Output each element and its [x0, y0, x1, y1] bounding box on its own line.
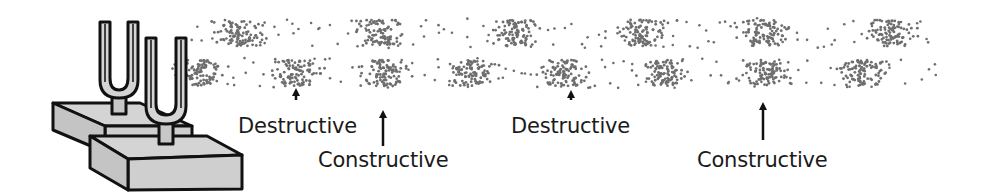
compression-cluster: [866, 19, 920, 48]
arrow-destructive-2: [567, 90, 575, 100]
base-block-front-front: [128, 155, 242, 190]
compression-cluster: [210, 19, 267, 48]
compression-cluster: [358, 59, 414, 88]
compression-cluster: [616, 19, 669, 48]
label-constructive-1: Constructive: [318, 148, 449, 172]
label-destructive-1: Destructive: [238, 114, 357, 138]
compression-cluster: [492, 19, 541, 48]
label-constructive-2: Constructive: [697, 148, 828, 172]
compression-cluster: [735, 59, 793, 87]
sound-waves: [171, 17, 937, 89]
compression-cluster: [350, 19, 403, 47]
arrow-constructive-2: [759, 102, 767, 140]
interference-diagram: [0, 0, 985, 192]
compression-cluster: [835, 59, 887, 87]
compression-cluster: [535, 59, 596, 88]
compression-cluster: [635, 59, 689, 87]
label-destructive-2: Destructive: [511, 114, 630, 138]
fork-prongs-front: [146, 38, 186, 124]
bottom-wave: [171, 57, 937, 89]
arrow-destructive-1: [292, 88, 300, 100]
arrow-constructive-1: [379, 110, 387, 146]
compression-cluster: [448, 59, 500, 87]
top-wave: [190, 17, 929, 49]
